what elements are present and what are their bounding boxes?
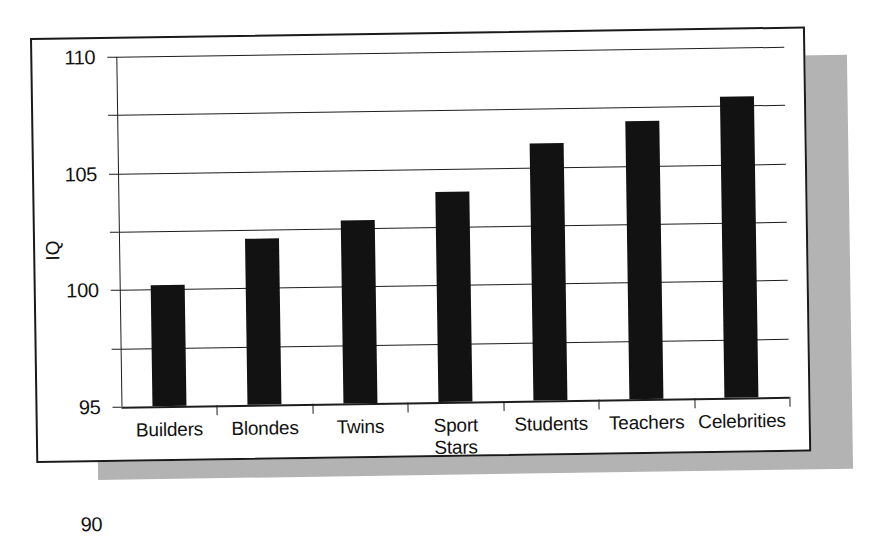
- y-axis-tick: 100: [109, 173, 118, 174]
- x-axis-category-label: Sport Stars: [433, 414, 478, 458]
- y-axis-tick: 105: [108, 115, 117, 116]
- x-axis-category-label: Blondes: [231, 417, 299, 440]
- y-axis-title: IQ: [42, 240, 64, 260]
- x-axis-tick: [694, 398, 695, 408]
- bar: [530, 143, 568, 400]
- y-axis-tick: 85: [112, 348, 121, 349]
- y-axis-tick-label: 110: [64, 46, 95, 69]
- y-axis-tick-label: 95: [79, 396, 101, 419]
- y-axis-tick: 80: [112, 407, 121, 408]
- x-axis-category-label: Students: [514, 413, 588, 436]
- y-axis-tick-label: 90: [80, 513, 102, 536]
- figure-frame: IQ 80859095100105110 BuildersBlondesTwin…: [30, 27, 811, 463]
- plot-area: IQ 80859095100105110 BuildersBlondesTwin…: [116, 47, 789, 407]
- x-axis-tick: [217, 405, 218, 415]
- y-axis-tick: 110: [107, 57, 116, 58]
- x-axis-category-label: Twins: [336, 416, 384, 439]
- x-axis-tick: [408, 402, 409, 412]
- y-axis-tick-label: 100: [66, 279, 99, 302]
- bar: [150, 284, 186, 406]
- bar: [435, 191, 472, 401]
- x-axis-tick: [312, 404, 313, 414]
- x-axis-tick: [599, 400, 600, 410]
- x-axis-category-label: Celebrities: [698, 410, 786, 433]
- bar: [245, 239, 281, 405]
- y-axis-tick-label: 105: [64, 163, 97, 186]
- x-axis-category-label: Builders: [136, 418, 203, 441]
- scanned-page: IQ 80859095100105110 BuildersBlondesTwin…: [0, 0, 873, 536]
- x-axis-category-label: Teachers: [609, 411, 685, 434]
- bar: [625, 121, 663, 399]
- y-axis-tick: 90: [111, 290, 120, 291]
- bar: [720, 96, 758, 397]
- bar: [340, 220, 377, 404]
- bars-group: [116, 47, 789, 407]
- y-axis-tick: 95: [110, 232, 119, 233]
- x-axis-tick: [503, 401, 504, 411]
- x-axis-tick: [789, 397, 790, 407]
